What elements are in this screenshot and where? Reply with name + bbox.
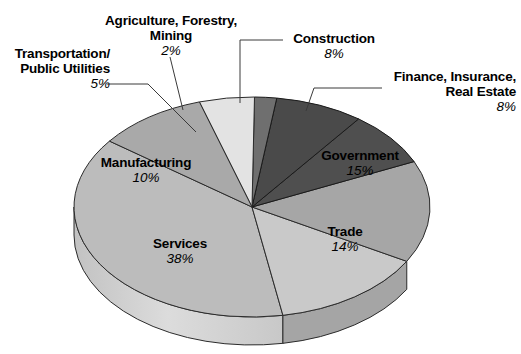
callout-pct-agriculture: 2% — [82, 43, 260, 58]
callout-label-transportation-line2: Public Utilities — [6, 61, 110, 76]
callout-pct-finance: 8% — [361, 99, 516, 114]
inner-label-government-pct: 15% — [300, 163, 420, 178]
callout-label-agriculture-line1: Agriculture, Forestry, — [82, 13, 260, 28]
inner-label-manufacturing-name: Manufacturing — [86, 155, 206, 170]
callout-label-finance-line1: Finance, Insurance, — [361, 69, 516, 84]
inner-label-manufacturing-pct: 10% — [86, 170, 206, 185]
callout-pct-construction: 8% — [286, 46, 382, 61]
inner-label-services-name: Services — [125, 236, 235, 251]
callout-label-construction: Construction — [286, 31, 382, 46]
callout-finance-insurance-real-estate: Finance, Insurance, Real Estate 8% — [361, 69, 516, 114]
callout-construction: Construction 8% — [286, 31, 382, 61]
leader-line-agriculture-forestry-mining — [170, 57, 183, 110]
inner-label-services-pct: 38% — [125, 251, 235, 266]
inner-label-manufacturing: Manufacturing 10% — [86, 155, 206, 185]
callout-agriculture-forestry-mining: Agriculture, Forestry, Mining 2% — [82, 13, 260, 58]
inner-label-trade-name: Trade — [305, 224, 385, 239]
pie-slices — [74, 97, 430, 317]
callout-pct-transportation: 5% — [6, 76, 110, 91]
inner-label-government: Government 15% — [300, 148, 420, 178]
callout-label-agriculture-line2: Mining — [82, 28, 260, 43]
callout-label-finance-line2: Real Estate — [361, 84, 516, 99]
inner-label-trade-pct: 14% — [305, 239, 385, 254]
inner-label-services: Services 38% — [125, 236, 235, 266]
inner-label-government-name: Government — [300, 148, 420, 163]
pie-chart: Transportation/ Public Utilities 5% Agri… — [0, 0, 521, 354]
inner-label-trade: Trade 14% — [305, 224, 385, 254]
